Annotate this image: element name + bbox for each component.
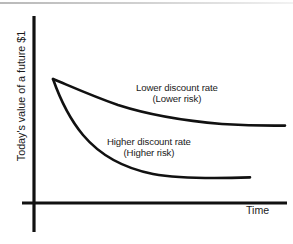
y-axis-label: Today's value of a future $1 — [15, 31, 27, 161]
discount-rate-chart: Lower discount rate (Lower risk) Higher … — [0, 0, 293, 244]
annotation-lower-line1: Lower discount rate — [136, 82, 218, 93]
annotation-higher-line1: Higher discount rate — [107, 136, 191, 147]
annotation-lower-discount-rate: Lower discount rate (Lower risk) — [136, 82, 218, 105]
annotation-higher-discount-rate: Higher discount rate (Higher risk) — [107, 136, 191, 159]
annotation-lower-line2: (Lower risk) — [136, 93, 218, 104]
x-axis-label: Time — [246, 204, 269, 216]
annotation-higher-line2: (Higher risk) — [107, 147, 191, 158]
